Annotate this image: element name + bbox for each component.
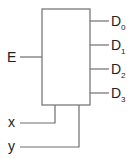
output-label: D — [111, 37, 121, 53]
output-subscript: 1 — [121, 47, 126, 56]
output-d2: D 2 — [90, 61, 126, 80]
output-label: D — [111, 61, 121, 77]
output-subscript: 2 — [121, 71, 126, 80]
output-d1: D 1 — [90, 37, 126, 56]
select-y-wire — [20, 105, 79, 147]
select-y-label: y — [8, 138, 15, 154]
decoder-diagram: E D 0 D 1 D 2 D 3 x y — [0, 0, 140, 159]
output-subscript: 0 — [121, 23, 126, 32]
decoder-box — [42, 9, 90, 105]
output-d3: D 3 — [90, 85, 126, 104]
select-x-wire — [20, 105, 55, 123]
output-label: D — [111, 85, 121, 101]
output-subscript: 3 — [121, 95, 126, 104]
output-d0: D 0 — [90, 13, 126, 32]
select-x-label: x — [8, 114, 15, 130]
enable-label: E — [7, 49, 16, 65]
output-label: D — [111, 13, 121, 29]
